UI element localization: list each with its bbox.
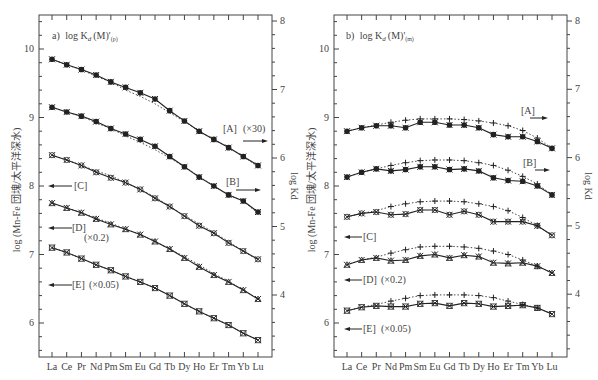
x-tick-label: Pm [399, 361, 413, 372]
label-C-a: [C] [74, 180, 87, 191]
x-tick-label: Eu [135, 361, 146, 372]
y-right-tick-label: 6 [575, 152, 580, 163]
series-E [344, 292, 555, 317]
chart-canvas: 678910 45678 LaCePrNdPmSmEuGdTbDyHoErTmY… [0, 0, 598, 380]
x-tick-label: Pr [77, 361, 87, 372]
y-right-tick-label: 6 [280, 152, 285, 163]
y-right-tick-label: 8 [575, 15, 580, 26]
panel-b: 678910 45678 LaCePrNdPmSmEuGdTbDyHoErTmY… [305, 15, 594, 372]
y-tick-label: 10 [319, 43, 329, 54]
x-tick-label: Er [503, 361, 513, 372]
label-E-b: [E] [363, 323, 376, 334]
x-tick-label: La [342, 361, 353, 372]
y-right-tick-label: 5 [280, 221, 285, 232]
factor-D-a: (×0.2) [84, 232, 109, 244]
arrow-left-icon [344, 327, 362, 331]
y-axis-label-b: log (Mn-Fe 団塊/太平洋深水) [305, 128, 318, 252]
y-tick-label: 8 [29, 180, 34, 191]
factor-D-b: (×0.2) [381, 274, 406, 286]
y-axis-right-a: 45678 [272, 15, 285, 350]
series-A [344, 116, 555, 151]
y-tick-label: 6 [29, 317, 34, 328]
y-tick-label: 7 [324, 249, 329, 260]
x-tick-label: Dy [473, 361, 485, 372]
x-tick-label: Dy [178, 361, 190, 372]
y-axis-left-a: 678910 [24, 22, 44, 351]
figure: 678910 45678 LaCePrNdPmSmEuGdTbDyHoErTmY… [0, 0, 598, 380]
y-right-tick-label: 4 [280, 289, 285, 300]
panel-title-b: b) log Kd(M)'(m) [346, 30, 414, 43]
y-axis-right-label-a: log Kd [289, 172, 300, 200]
arrow-right-icon [236, 188, 261, 192]
label-E-a: [E] [72, 279, 85, 290]
series-D [344, 243, 555, 276]
factor-A-a: (×30) [243, 123, 265, 135]
panel-a: 678910 45678 LaCePrNdPmSmEuGdTbDyHoErTmY… [10, 15, 300, 372]
label-B-b: [B] [523, 157, 536, 168]
arrow-left-icon [344, 278, 362, 282]
arrow-left-icon [344, 235, 362, 239]
y-axis-right-b: 45678 [567, 15, 580, 349]
x-tick-label: Lu [546, 361, 557, 372]
arrow-left-icon [48, 184, 72, 188]
y-tick-label: 6 [324, 317, 329, 328]
x-tick-label: Lu [252, 361, 263, 372]
series-E [49, 245, 261, 343]
arrow-right-icon [535, 168, 550, 172]
y-right-tick-label: 5 [575, 220, 580, 231]
x-tick-label: Pm [104, 361, 118, 372]
y-right-tick-label: 7 [280, 84, 285, 95]
x-tick-label: Er [209, 361, 219, 372]
label-B-a: [B] [226, 176, 239, 187]
arrow-left-icon [48, 226, 72, 230]
series-group-a [49, 56, 261, 343]
x-tick-label: Yb [237, 361, 249, 372]
arrow-right-icon [530, 116, 548, 120]
y-axis-right-label-b: log Kd [583, 172, 594, 200]
x-tick-label: Sm [119, 361, 133, 372]
x-tick-label: La [47, 361, 58, 372]
label-A-b: [A] [521, 105, 535, 116]
arrow-left-icon [48, 283, 72, 287]
x-tick-label: Eu [429, 361, 440, 372]
y-right-tick-label: 8 [280, 15, 285, 26]
x-tick-label: Tb [459, 361, 470, 372]
x-tick-label: Tm [222, 361, 236, 372]
panel-title-a: a) log Kd(M)'(p) [52, 30, 118, 43]
y-axis-label-a: log (Mn-Fe 団塊/太平洋深水) [10, 128, 23, 252]
x-tick-label: Sm [414, 361, 428, 372]
x-tick-label: Pr [372, 361, 382, 372]
x-tick-label: Tm [516, 361, 530, 372]
label-A-a: [A] [223, 123, 237, 134]
x-tick-label: Ho [487, 361, 499, 372]
x-tick-label: Ho [193, 361, 205, 372]
arrow-right-icon [243, 139, 268, 143]
y-axis-left-b: 678910 [319, 22, 339, 351]
x-tick-label: Ce [356, 361, 368, 372]
x-tick-label: Nd [385, 361, 397, 372]
series-group-b [344, 116, 555, 317]
factor-E-a: (×0.05) [89, 279, 119, 291]
label-D-b: [D] [363, 274, 377, 285]
y-tick-label: 7 [29, 249, 34, 260]
x-tick-label: Gd [149, 361, 161, 372]
x-tick-label: Ce [61, 361, 73, 372]
x-tick-label: Gd [443, 361, 455, 372]
x-tick-label: Tb [164, 361, 175, 372]
series-A [49, 56, 261, 168]
x-tick-label: Yb [531, 361, 543, 372]
y-right-tick-label: 4 [575, 288, 580, 299]
factor-E-b: (×0.05) [381, 323, 411, 335]
label-C-b: [C] [363, 231, 376, 242]
y-right-tick-label: 7 [575, 83, 580, 94]
series-C [49, 152, 261, 262]
y-tick-label: 9 [29, 112, 34, 123]
y-tick-label: 9 [324, 112, 329, 123]
x-tick-label: Nd [90, 361, 102, 372]
y-tick-label: 10 [24, 43, 34, 54]
x-axis-b: LaCePrNdPmSmEuGdTbDyHoErTmYbLu [342, 15, 558, 372]
y-tick-label: 8 [324, 180, 329, 191]
